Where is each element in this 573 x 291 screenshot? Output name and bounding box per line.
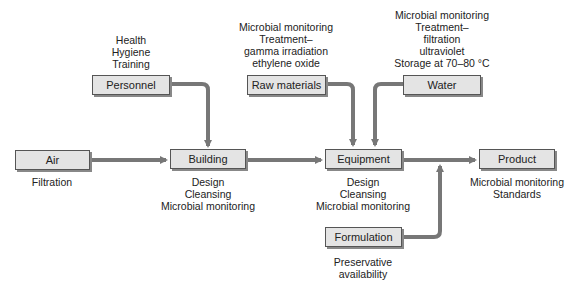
- note-line: ultraviolet: [382, 45, 502, 57]
- node-raw-materials: Raw materials: [247, 75, 326, 95]
- note-line: Microbial monitoring: [303, 200, 423, 212]
- arrow-personnel-building: [170, 84, 208, 146]
- node-equipment: Equipment: [325, 149, 402, 169]
- arrow-water-equipment: [375, 84, 403, 145]
- note-line: filtration: [382, 33, 502, 45]
- note-product: Microbial monitoring Standards: [457, 176, 573, 200]
- note-line: Treatment–: [382, 21, 502, 33]
- note-water: Microbial monitoring Treatment– filtrati…: [382, 9, 502, 69]
- note-line: Microbial monitoring: [226, 21, 346, 33]
- node-personnel: Personnel: [92, 75, 170, 95]
- note-line: Standards: [457, 188, 573, 200]
- node-label: Raw materials: [252, 79, 322, 91]
- node-label: Water: [428, 79, 457, 91]
- note-line: Cleansing: [148, 188, 268, 200]
- node-label: Equipment: [337, 153, 390, 165]
- node-label: Personnel: [106, 79, 156, 91]
- note-line: Treatment–: [226, 33, 346, 45]
- node-air: Air: [15, 150, 90, 170]
- note-line: ethylene oxide: [226, 57, 346, 69]
- note-line: availability: [313, 268, 413, 280]
- note-line: Health: [81, 34, 181, 46]
- node-product: Product: [479, 149, 555, 169]
- node-label: Building: [188, 153, 227, 165]
- node-label: Product: [498, 153, 536, 165]
- node-building: Building: [170, 149, 246, 169]
- arrow-raw-equipment: [326, 84, 353, 145]
- note-line: Design: [148, 176, 268, 188]
- note-line: Filtration: [2, 176, 102, 188]
- note-line: Microbial monitoring: [457, 176, 573, 188]
- note-line: Storage at 70–80 °C: [382, 57, 502, 69]
- node-formulation: Formulation: [325, 227, 402, 247]
- note-line: Hygiene: [81, 46, 181, 58]
- note-equipment: Design Cleansing Microbial monitoring: [303, 176, 423, 212]
- note-building: Design Cleansing Microbial monitoring: [148, 176, 268, 212]
- note-line: Cleansing: [303, 188, 423, 200]
- note-air: Filtration: [2, 176, 102, 188]
- node-label: Formulation: [334, 231, 392, 243]
- node-label: Air: [46, 154, 59, 166]
- note-line: Microbial monitoring: [382, 9, 502, 21]
- note-line: Training: [81, 58, 181, 70]
- note-line: gamma irradiation: [226, 45, 346, 57]
- note-line: Preservative: [313, 256, 413, 268]
- note-raw-materials: Microbial monitoring Treatment– gamma ir…: [226, 21, 346, 69]
- node-water: Water: [403, 75, 481, 95]
- note-formulation: Preservative availability: [313, 256, 413, 280]
- note-personnel: Health Hygiene Training: [81, 34, 181, 70]
- note-line: Design: [303, 176, 423, 188]
- note-line: Microbial monitoring: [148, 200, 268, 212]
